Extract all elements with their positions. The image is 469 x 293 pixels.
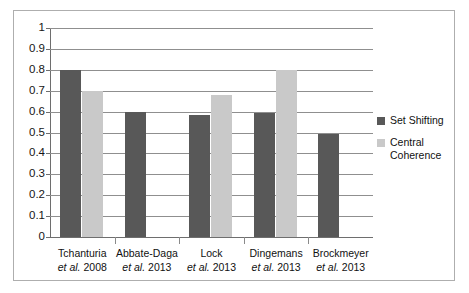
legend-label: Central Coherence xyxy=(390,136,455,163)
bar xyxy=(318,134,339,237)
y-axis-tick-label: 0.6 xyxy=(15,106,45,118)
category-tick xyxy=(308,237,309,244)
bar xyxy=(254,113,275,237)
bar xyxy=(189,115,210,237)
chart-legend: Set ShiftingCentral Coherence xyxy=(377,114,455,171)
y-axis-tick-label: 0.4 xyxy=(15,148,45,160)
y-axis-tick-label: 0.7 xyxy=(15,85,45,97)
figure-frame: 00.10.20.30.40.50.60.70.80.91 Tchanturia… xyxy=(13,10,455,281)
bar xyxy=(125,112,146,237)
y-axis-tick-label: 0.9 xyxy=(15,43,45,55)
y-axis-tick-label: 0.3 xyxy=(15,169,45,181)
legend-label: Set Shifting xyxy=(390,114,444,128)
gridline xyxy=(50,70,373,71)
legend-item[interactable]: Set Shifting xyxy=(377,114,455,128)
category-tick xyxy=(115,237,116,244)
y-axis-tick-label: 0.1 xyxy=(15,210,45,222)
legend-swatch-icon xyxy=(377,117,385,125)
y-axis-tick-label: 1 xyxy=(15,22,45,34)
category-tick xyxy=(179,237,180,244)
gridline xyxy=(50,49,373,50)
legend-item[interactable]: Central Coherence xyxy=(377,136,455,163)
category-axis-ticks xyxy=(50,237,373,245)
category-tick xyxy=(244,237,245,244)
bar xyxy=(211,95,232,237)
y-axis-tick-label: 0 xyxy=(15,231,45,243)
category-label-citation: et al. 2013 xyxy=(300,261,381,275)
bar xyxy=(82,91,103,237)
gridline xyxy=(50,28,373,29)
plot-area xyxy=(50,28,373,237)
bar xyxy=(60,70,81,237)
category-label: Brockmeyeret al. 2013 xyxy=(300,247,381,274)
bar xyxy=(276,70,297,237)
category-axis-labels: Tchanturiaet al. 2008Abbate-Dagaet al. 2… xyxy=(50,247,373,283)
y-axis-tick-labels: 00.10.20.30.40.50.60.70.80.91 xyxy=(14,28,45,237)
legend-swatch-icon xyxy=(377,139,385,147)
category-label-author: Brockmeyer xyxy=(300,247,381,261)
y-axis-tick-label: 0.5 xyxy=(15,127,45,139)
y-axis-tick-label: 0.8 xyxy=(15,64,45,76)
y-axis-tick-label: 0.2 xyxy=(15,189,45,201)
